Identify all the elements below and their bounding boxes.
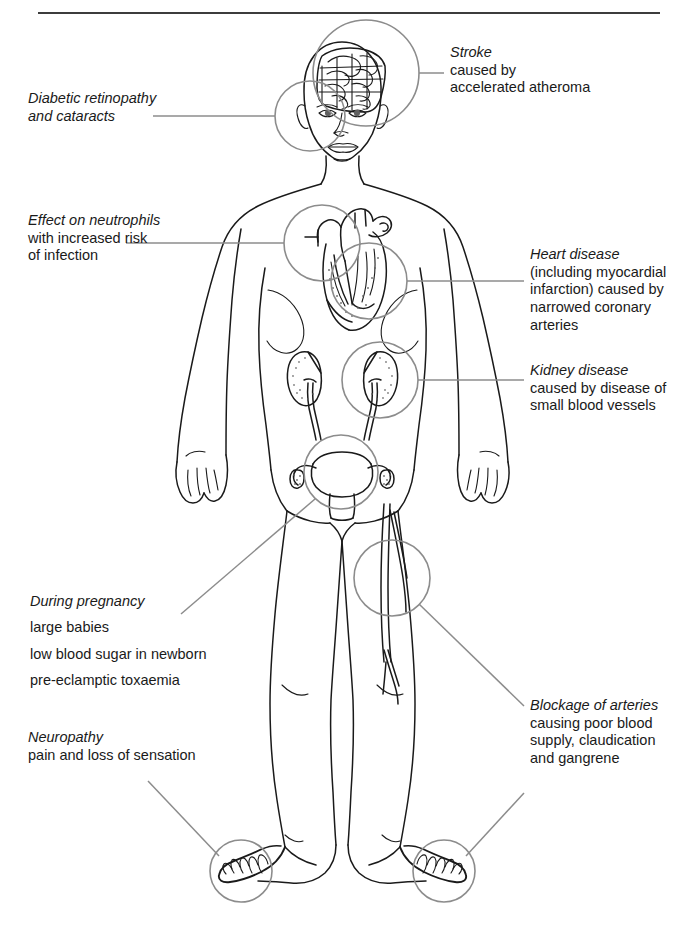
label-stroke-heading: Stroke — [450, 44, 590, 62]
label-effect-on-neutrophils: Effect on neutrophils with increased ris… — [28, 212, 160, 265]
face-features — [317, 48, 385, 161]
kidney-right-organ — [364, 352, 398, 440]
label-heart-line-3: narrowed coronary — [530, 299, 666, 317]
label-blockage-line-2: supply, claudication — [530, 732, 658, 750]
anatomical-figure: .ol { fill:none; stroke:#1a1a1a; stroke-… — [0, 0, 685, 933]
label-neuropathy-heading: Neuropathy — [28, 729, 196, 747]
label-heart-disease: Heart disease (including myocardial infa… — [530, 246, 666, 334]
label-pregnancy-heading: During pregnancy — [30, 588, 207, 614]
leader-line-blockage — [419, 604, 524, 706]
highlight-circle-uterus — [304, 435, 378, 509]
label-neuropathy-line-1: pain and loss of sensation — [28, 747, 196, 765]
label-blockage-line-1: causing poor blood — [530, 715, 658, 733]
label-stroke: Stroke caused by accelerated atheroma — [450, 44, 590, 97]
label-pregnancy-line-1: large babies — [30, 614, 207, 640]
label-blockage-of-arteries: Blockage of arteries causing poor blood … — [530, 697, 658, 768]
label-diabetic-retinopathy: Diabetic retinopathy and cataracts — [28, 90, 156, 125]
label-neutrophils-line-1: with increased risk — [28, 230, 160, 248]
diagram-canvas: .ol { fill:none; stroke:#1a1a1a; stroke-… — [0, 0, 685, 933]
label-neutrophils-heading: Effect on neutrophils — [28, 212, 160, 230]
label-neutrophils-line-2: of infection — [28, 247, 160, 265]
label-stroke-line-1: caused by — [450, 62, 590, 80]
label-stroke-line-2: accelerated atheroma — [450, 79, 590, 97]
label-blockage-line-3: and gangrene — [530, 750, 658, 768]
leg-artery-vessels — [381, 504, 407, 704]
leader-line-foot-right — [466, 793, 524, 856]
label-neuropathy: Neuropathy pain and loss of sensation — [28, 729, 196, 764]
label-kidney-disease: Kidney disease caused by disease of smal… — [530, 362, 666, 415]
kidney-left-organ — [287, 352, 321, 440]
body-outline — [176, 42, 509, 883]
leader-line-neuropathy — [148, 781, 219, 856]
highlight-circle-neutrophils — [284, 205, 360, 281]
label-heart-line-2: infarction) caused by — [530, 281, 666, 299]
label-kidney-line-1: caused by disease of — [530, 380, 666, 398]
label-pregnancy-line-3: pre-eclamptic toxaemia — [30, 667, 207, 693]
label-blockage-heading: Blockage of arteries — [530, 697, 658, 715]
label-heart-heading: Heart disease — [530, 246, 666, 264]
label-kidney-line-2: small blood vessels — [530, 397, 666, 415]
label-kidney-heading: Kidney disease — [530, 362, 666, 380]
label-heart-line-1: (including myocardial — [530, 264, 666, 282]
label-heart-line-4: arteries — [530, 317, 666, 335]
label-retinopathy-heading: Diabetic retinopathy — [28, 90, 156, 108]
label-retinopathy-line-1: and cataracts — [28, 108, 156, 126]
label-pregnancy-line-2: low blood sugar in newborn — [30, 641, 207, 667]
label-during-pregnancy: During pregnancy large babies low blood … — [30, 588, 207, 694]
